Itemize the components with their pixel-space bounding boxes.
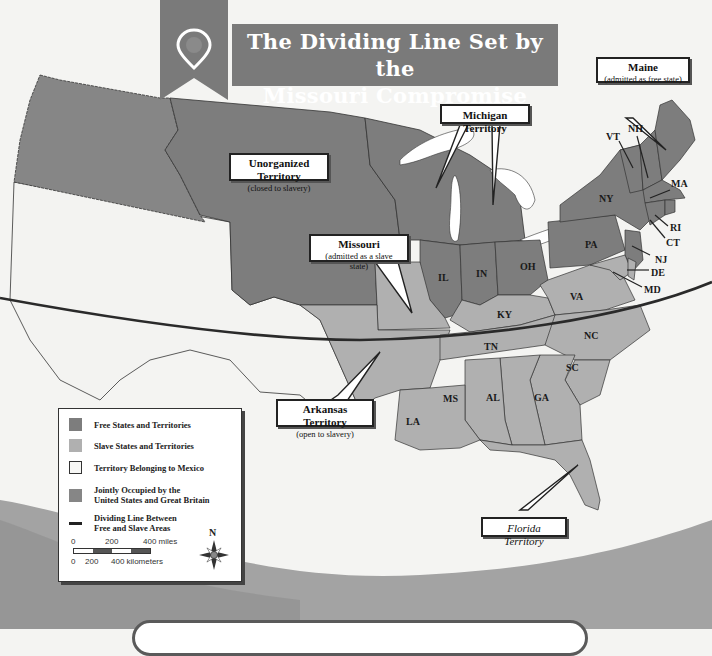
legend-label: Free States and Territories (94, 420, 191, 430)
scale-mi-200: 200 (105, 537, 118, 546)
callout-michigan-name: Michigan Territory (448, 109, 522, 135)
legend-label: Slave States and Territories (94, 441, 194, 451)
legend-label: Jointly Occupied by the United States an… (94, 485, 210, 505)
state-label-MD: MD (644, 284, 661, 295)
state-ME (655, 100, 695, 180)
legend-label-line2: Free and Slave Areas (94, 523, 170, 533)
state-label-OH: OH (520, 261, 536, 272)
legend-item-joint: Jointly Occupied by the United States an… (69, 485, 210, 505)
callout-unorganized-name: Unorganized Territory (237, 157, 321, 183)
state-label-VT: VT (606, 131, 620, 142)
slave-swatch (69, 439, 82, 452)
scale-bar-graphic (73, 548, 151, 554)
map-legend: Free States and Territories Slave States… (58, 408, 242, 582)
scale-km-400: 400 kilometers (111, 557, 163, 566)
legend-label-line1: Jointly Occupied by the (94, 485, 180, 495)
state-label-MS: MS (443, 393, 458, 404)
callout-florida-territory: Florida Territory (481, 517, 567, 537)
dividing-line-swatch (69, 522, 82, 525)
callout-arkansas-name: Arkansas Territory (284, 403, 366, 429)
state-label-RI: RI (670, 222, 681, 233)
state-label-GA: GA (534, 392, 549, 403)
free-swatch (69, 418, 82, 431)
scale-mi-400: 400 miles (143, 537, 177, 546)
title-line-1: The Dividing Line Set by the (232, 28, 558, 82)
joint-swatch (69, 489, 82, 502)
state-label-SC: SC (566, 362, 579, 373)
compass-rose-icon: N (199, 527, 229, 571)
state-label-LA: LA (406, 416, 420, 427)
callout-maine-name: Maine (604, 61, 682, 74)
legend-item-slave: Slave States and Territories (69, 439, 194, 452)
legend-item-mexico: Territory Belonging to Mexico (69, 461, 204, 474)
state-label-NJ: NJ (655, 254, 667, 265)
callout-missouri-note: (admitted as a slave state) (317, 251, 401, 271)
state-label-PA: PA (585, 239, 598, 250)
callout-maine-note: (admitted as free state) (604, 74, 682, 84)
compass-north-label: N (209, 527, 216, 538)
scale-km-200: 200 (85, 557, 98, 566)
state-label-KY: KY (497, 309, 512, 320)
state-RI (665, 200, 675, 215)
callout-missouri: Missouri (admitted as a slave state) (309, 234, 409, 262)
state-label-IN: IN (476, 268, 487, 279)
state-label-NH: NH (628, 123, 643, 134)
callout-florida-name: Florida Territory (489, 522, 559, 548)
state-label-AL: AL (486, 392, 500, 403)
state-label-VA: VA (570, 291, 583, 302)
mexico-swatch (69, 461, 82, 474)
legend-item-dividing-line: Dividing Line Between Free and Slave Are… (69, 513, 177, 533)
legend-label-line1: Dividing Line Between (94, 513, 177, 523)
legend-label: Dividing Line Between Free and Slave Are… (94, 513, 177, 533)
callout-arkansas-territory: Arkansas Territory (open to slavery) (276, 399, 374, 427)
legend-label-line2: United States and Great Britain (94, 495, 210, 505)
state-DE (628, 258, 636, 280)
callout-arkansas-note: (open to slavery) (284, 429, 366, 439)
scale-bar: 0 200 400 miles 0 200 400 kilometers (71, 537, 201, 573)
callout-unorganized-territory: Unorganized Territory (closed to slavery… (229, 153, 329, 181)
state-label-IL: IL (438, 272, 449, 283)
state-label-TN: TN (484, 341, 498, 352)
page-title: The Dividing Line Set by the Missouri Co… (232, 24, 558, 86)
state-label-CT: CT (666, 237, 680, 248)
callout-michigan-territory: Michigan Territory (440, 104, 530, 124)
legend-item-free: Free States and Territories (69, 418, 191, 431)
callout-missouri-name: Missouri (317, 238, 401, 251)
callout-maine: Maine (admitted as free state) (596, 57, 690, 83)
bottom-panel (132, 620, 588, 656)
callout-unorganized-note: (closed to slavery) (237, 183, 321, 193)
state-label-DE: DE (651, 267, 665, 278)
legend-label: Territory Belonging to Mexico (94, 463, 204, 473)
state-label-NY: NY (599, 193, 613, 204)
scale-km-0: 0 (71, 557, 75, 566)
scale-mi-0: 0 (71, 537, 75, 546)
state-label-MA: MA (671, 178, 688, 189)
state-label-NC: NC (584, 330, 598, 341)
